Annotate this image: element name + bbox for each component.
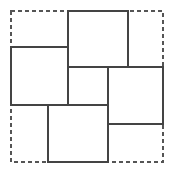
left-square <box>11 47 68 105</box>
bottom-square <box>48 105 108 162</box>
figure-container <box>0 0 175 173</box>
right-square <box>108 67 163 124</box>
pinwheel-dissection-diagram <box>0 0 175 173</box>
center-square <box>68 67 108 105</box>
top-square <box>68 11 128 67</box>
